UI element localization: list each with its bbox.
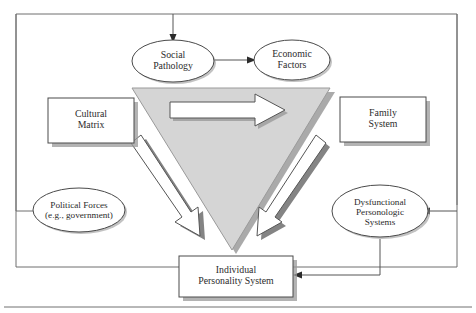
- connector-dysfunctional-to-individual-personality: [293, 239, 380, 279]
- connector-social-pathology-to-economic-factors: [213, 57, 256, 64]
- node-individual-personality-shape: [179, 256, 297, 301]
- node-cultural-matrix-shape: [48, 98, 138, 147]
- diagram-figure: Social Pathology Economic Factors Cultur…: [0, 0, 476, 313]
- node-dysfunctional-personologic-shape: [332, 185, 430, 239]
- connector-feedback-into-social-pathology: [170, 14, 177, 43]
- diagram-canvas: [0, 0, 476, 313]
- node-family-system-shape: [340, 97, 430, 146]
- node-social-pathology-shape: [132, 40, 216, 84]
- node-economic-factors-shape: [254, 40, 332, 82]
- node-political-forces-shape: [33, 188, 127, 234]
